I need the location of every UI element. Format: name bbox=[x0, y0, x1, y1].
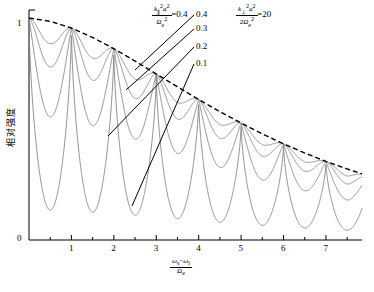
ann-right-a-sup: 2 bbox=[253, 3, 256, 9]
ann-left-omega-sup: 2 bbox=[164, 16, 167, 22]
ann-right-k-sub: ⊥ bbox=[241, 9, 246, 15]
x-tick-label: 1 bbox=[69, 243, 74, 253]
annotation-perpendicular-parameter: k⊥2a2 2Ωe2 =20 bbox=[236, 3, 271, 28]
chart-figure bbox=[0, 0, 374, 292]
annotation-parallel-parameter: k∥2a2 Ωe2 =0.4 bbox=[152, 3, 187, 28]
x-tick-label: 5 bbox=[239, 243, 244, 253]
curve-label-04: 0.4 bbox=[196, 9, 207, 19]
ann-left-value: 0.4 bbox=[176, 9, 187, 19]
ann-left-omega-sub: e bbox=[162, 22, 165, 28]
x-label-omega-i-sub: i bbox=[188, 260, 190, 266]
x-tick-label: 3 bbox=[154, 243, 159, 253]
leader-01 bbox=[132, 64, 194, 206]
x-tick-label: 6 bbox=[281, 243, 286, 253]
x-axis-label: ωs−ωi Ωe bbox=[170, 258, 192, 276]
curve-label-01: 0.1 bbox=[196, 58, 207, 68]
ann-right-omega-sup: 2 bbox=[251, 16, 254, 22]
ann-left-k-sub: ∥ bbox=[157, 9, 160, 15]
x-label-omega-e-sub: e bbox=[182, 270, 185, 276]
ann-left-a-sup: 2 bbox=[167, 3, 170, 9]
x-tick-label: 7 bbox=[323, 243, 328, 253]
leader-lines bbox=[108, 15, 194, 206]
y-tick-label-0: 0 bbox=[17, 233, 22, 243]
curve-label-02: 0.2 bbox=[196, 41, 207, 51]
x-axis-ticks bbox=[50, 235, 347, 240]
y-tick-label-1: 1 bbox=[17, 18, 22, 28]
x-tick-label: 2 bbox=[111, 243, 116, 253]
y-axis-label: 相对强度 bbox=[4, 97, 17, 157]
ann-right-value: 20 bbox=[262, 9, 271, 19]
ann-right-omega-sub: e bbox=[248, 22, 251, 28]
curve-label-03: 0.3 bbox=[196, 23, 207, 33]
x-tick-label: 4 bbox=[196, 243, 201, 253]
